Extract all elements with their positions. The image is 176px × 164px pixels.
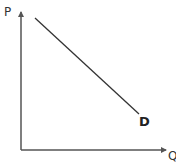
x-axis-label: Q <box>168 150 176 162</box>
demand-curve-label: D <box>139 116 150 128</box>
demand-diagram <box>0 0 176 164</box>
y-axis-label: P <box>4 6 11 18</box>
demand-curve <box>35 18 139 114</box>
